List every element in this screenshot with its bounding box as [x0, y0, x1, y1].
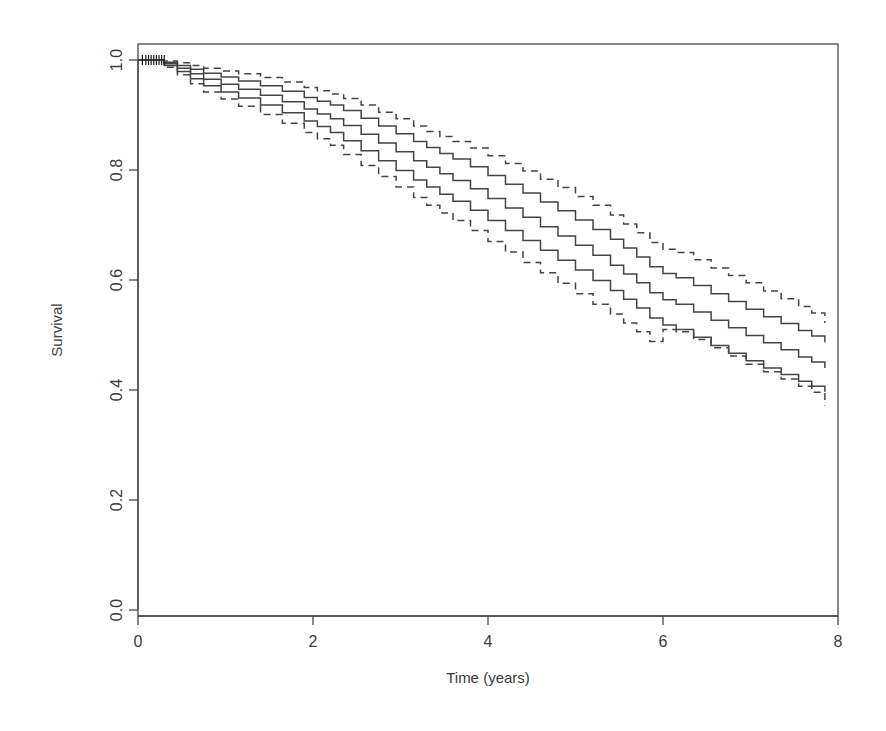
y-axis-title: Survival	[48, 303, 65, 356]
x-tick-label: 2	[309, 633, 318, 650]
x-tick-label: 8	[834, 633, 843, 650]
kaplan-meier-chart: 0.00.20.40.60.81.0 02468 Survival Time (…	[0, 0, 886, 731]
survival-plot-figure: 0.00.20.40.60.81.0 02468 Survival Time (…	[0, 0, 886, 731]
chart-background	[0, 0, 886, 731]
y-tick-label: 0.0	[108, 599, 125, 621]
x-axis-title: Time (years)	[446, 669, 530, 686]
y-tick-label: 0.6	[108, 269, 125, 291]
y-tick-label: 1.0	[108, 49, 125, 71]
y-tick-label: 0.8	[108, 159, 125, 181]
x-tick-label: 6	[659, 633, 668, 650]
x-tick-label: 0	[134, 633, 143, 650]
y-tick-label: 0.4	[108, 379, 125, 401]
x-tick-label: 4	[484, 633, 493, 650]
y-tick-label: 0.2	[108, 489, 125, 511]
